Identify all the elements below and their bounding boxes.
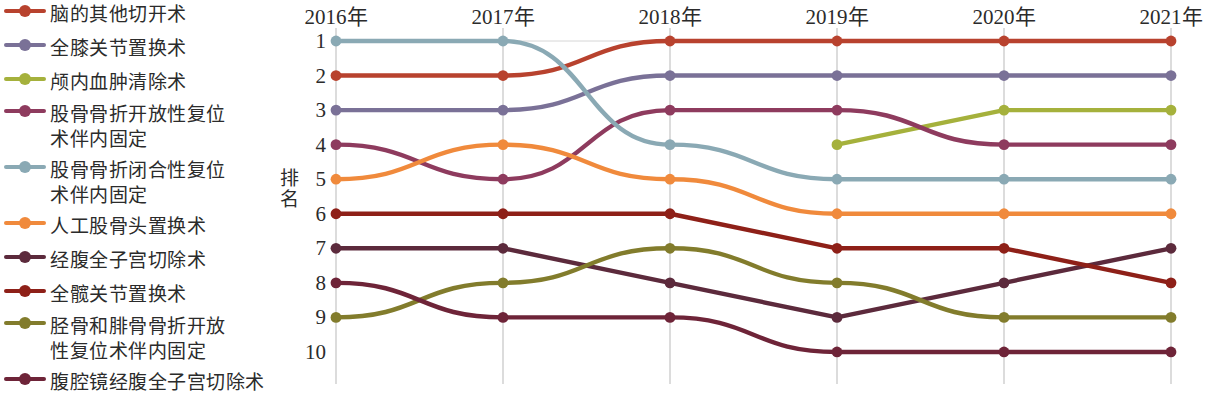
series-point[interactable] (331, 174, 342, 185)
x-tick-label: 2019年 (806, 0, 869, 30)
x-tick-label: 2018年 (639, 0, 702, 30)
series-point[interactable] (832, 312, 843, 323)
y-tick-label: 8 (286, 270, 326, 295)
chart-legend: 脑的其他切开术全膝关节置换术颅内血肿清除术股骨骨折开放性复位 术伴内固定股骨骨折… (0, 0, 280, 399)
series-point[interactable] (1166, 277, 1177, 288)
series-point[interactable] (331, 243, 342, 254)
y-tick-label: 7 (286, 236, 326, 261)
series-point[interactable] (832, 243, 843, 254)
series-point[interactable] (832, 36, 843, 47)
legend-item-total_hip_replacement[interactable]: 全髋关节置换术 (4, 282, 187, 307)
y-axis-label: 排名 (278, 168, 297, 210)
legend-item-label: 腹腔镜经腹全子宫切除术 (50, 370, 265, 395)
series-point[interactable] (331, 70, 342, 81)
series-point[interactable] (999, 139, 1010, 150)
legend-item-label: 胫骨和腓骨骨折开放 性复位术伴内固定 (50, 314, 226, 364)
legend-marker-icon (4, 36, 46, 54)
series-point[interactable] (498, 174, 509, 185)
legend-marker-icon (4, 282, 46, 300)
legend-item-femur_closed_reduction[interactable]: 股骨骨折闭合性复位 术伴内固定 (4, 158, 226, 208)
series-point[interactable] (665, 243, 676, 254)
series-point[interactable] (1166, 312, 1177, 323)
series-line (336, 41, 1171, 76)
y-tick-label: 1 (286, 29, 326, 54)
series-3 (331, 105, 1177, 185)
series-point[interactable] (498, 70, 509, 81)
series-point[interactable] (999, 208, 1010, 219)
legend-item-total_knee_replacement[interactable]: 全膝关节置换术 (4, 36, 187, 61)
x-tick-label: 2017年 (472, 0, 535, 30)
series-point[interactable] (832, 347, 843, 358)
x-tick-label: 2016年 (305, 0, 368, 30)
series-point[interactable] (665, 277, 676, 288)
series-point[interactable] (999, 70, 1010, 81)
series-point[interactable] (665, 36, 676, 47)
y-tick-label: 4 (286, 132, 326, 157)
series-point[interactable] (832, 105, 843, 116)
series-point[interactable] (331, 139, 342, 150)
series-point[interactable] (999, 105, 1010, 116)
chart-area: 123456789102016年2017年2018年2019年2020年2021… (280, 0, 1218, 399)
series-point[interactable] (999, 36, 1010, 47)
legend-item-label: 颅内血肿清除术 (50, 70, 187, 95)
series-point[interactable] (498, 277, 509, 288)
y-tick-label: 10 (286, 339, 326, 364)
legend-item-femoral_head_replacement[interactable]: 人工股骨头置换术 (4, 214, 206, 239)
legend-item-brain_other_incision[interactable]: 脑的其他切开术 (4, 2, 187, 27)
x-tick-label: 2020年 (973, 0, 1036, 30)
series-point[interactable] (331, 277, 342, 288)
legend-marker-icon (4, 70, 46, 88)
legend-item-abdominal_hysterectomy[interactable]: 经腹全子宫切除术 (4, 248, 206, 273)
bump-chart-svg (280, 0, 1218, 399)
x-tick-label: 2021年 (1140, 0, 1203, 30)
series-point[interactable] (1166, 105, 1177, 116)
series-point[interactable] (999, 347, 1010, 358)
series-point[interactable] (832, 139, 843, 150)
series-point[interactable] (999, 174, 1010, 185)
series-point[interactable] (1166, 243, 1177, 254)
legend-item-tibia_fibula_open_reduction[interactable]: 胫骨和腓骨骨折开放 性复位术伴内固定 (4, 314, 226, 364)
series-point[interactable] (999, 277, 1010, 288)
series-point[interactable] (1166, 347, 1177, 358)
series-point[interactable] (1166, 36, 1177, 47)
series-point[interactable] (1166, 174, 1177, 185)
chart-page: 脑的其他切开术全膝关节置换术颅内血肿清除术股骨骨折开放性复位 术伴内固定股骨骨折… (0, 0, 1218, 399)
series-point[interactable] (1166, 208, 1177, 219)
series-point[interactable] (665, 105, 676, 116)
series-point[interactable] (665, 139, 676, 150)
legend-item-label: 全膝关节置换术 (50, 36, 187, 61)
series-point[interactable] (665, 312, 676, 323)
series-point[interactable] (999, 312, 1010, 323)
series-point[interactable] (832, 70, 843, 81)
series-point[interactable] (498, 139, 509, 150)
series-point[interactable] (999, 243, 1010, 254)
series-point[interactable] (331, 208, 342, 219)
legend-item-label: 股骨骨折开放性复位 术伴内固定 (50, 102, 226, 152)
series-point[interactable] (331, 105, 342, 116)
y-tick-label: 9 (286, 305, 326, 330)
series-point[interactable] (832, 208, 843, 219)
legend-item-femur_open_reduction[interactable]: 股骨骨折开放性复位 术伴内固定 (4, 102, 226, 152)
series-point[interactable] (331, 36, 342, 47)
y-tick-label: 2 (286, 63, 326, 88)
legend-marker-icon (4, 2, 46, 20)
legend-item-intracranial_hematoma_removal[interactable]: 颅内血肿清除术 (4, 70, 187, 95)
series-point[interactable] (832, 174, 843, 185)
series-point[interactable] (498, 105, 509, 116)
series-point[interactable] (498, 36, 509, 47)
series-point[interactable] (498, 208, 509, 219)
series-point[interactable] (498, 243, 509, 254)
series-point[interactable] (498, 312, 509, 323)
legend-item-laparoscopic_hysterectomy[interactable]: 腹腔镜经腹全子宫切除术 (4, 370, 265, 395)
series-point[interactable] (665, 174, 676, 185)
legend-marker-icon (4, 158, 46, 176)
series-point[interactable] (665, 208, 676, 219)
series-point[interactable] (665, 70, 676, 81)
y-tick-label: 3 (286, 98, 326, 123)
legend-item-label: 脑的其他切开术 (50, 2, 187, 27)
legend-item-label: 全髋关节置换术 (50, 282, 187, 307)
series-point[interactable] (1166, 70, 1177, 81)
series-point[interactable] (1166, 139, 1177, 150)
series-point[interactable] (832, 277, 843, 288)
series-point[interactable] (331, 312, 342, 323)
